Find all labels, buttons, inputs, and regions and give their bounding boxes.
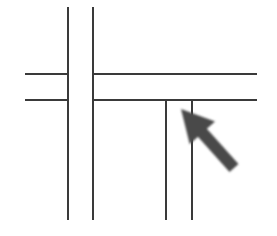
diagram-lines [25,7,257,220]
diagram-canvas [0,0,277,236]
arrow-shape [181,109,238,172]
pointer-arrow-icon [181,109,238,172]
